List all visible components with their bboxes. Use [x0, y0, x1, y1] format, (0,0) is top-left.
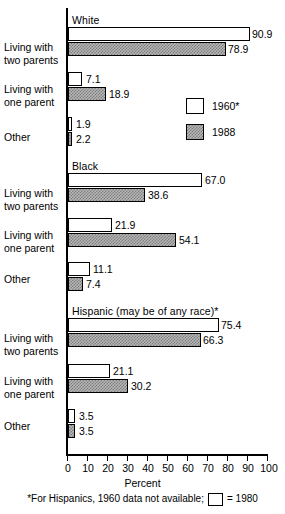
bar-value-white-one-parent-1960: 7.1 — [86, 72, 101, 86]
category-label-line2: one parent — [4, 388, 64, 401]
bar-black-two-parents-1988 — [68, 188, 145, 202]
bar-value-black-other-1960: 11.1 — [93, 262, 113, 276]
x-tick-30 — [127, 456, 128, 461]
bar-white-other-1960 — [68, 117, 72, 131]
bar-white-other-1988 — [68, 132, 72, 146]
bar-white-two-parents-1960 — [68, 27, 250, 41]
bar-value-black-one-parent-1988: 54.1 — [179, 233, 199, 247]
group-header-black: Black — [72, 160, 98, 172]
bar-value-white-other-1960: 1.9 — [76, 117, 91, 131]
bar-black-one-parent-1960 — [68, 218, 112, 232]
x-tick-20 — [107, 456, 108, 461]
bar-value-hispanic-other-1988: 3.5 — [79, 424, 94, 438]
x-axis-title: Percent — [0, 477, 285, 489]
legend-label-1960: 1960* — [212, 99, 239, 113]
category-label-line1: Living with — [4, 375, 64, 388]
group-header-hispanic: Hispanic (may be of any race)* — [72, 305, 219, 317]
horizontal-bar-chart: White Living with two parents 90.9 78.9 … — [0, 0, 285, 514]
bar-value-black-two-parents-1960: 67.0 — [205, 173, 225, 187]
footnote-legend-label: = 1980 — [227, 492, 258, 506]
bar-value-black-one-parent-1960: 21.9 — [115, 218, 135, 232]
category-label-line1: Living with — [4, 41, 64, 54]
bar-white-one-parent-1960 — [68, 72, 82, 86]
category-label-line2: one parent — [4, 242, 64, 255]
x-tick-70 — [207, 456, 208, 461]
x-tick-10 — [87, 456, 88, 461]
category-label-line2: two parents — [4, 345, 64, 358]
category-label-black-two-parents: Living with two parents — [4, 187, 64, 212]
bar-white-two-parents-1988 — [68, 42, 226, 56]
category-label-hispanic-other: Other — [4, 420, 64, 433]
bar-value-hispanic-other-1960: 3.5 — [79, 409, 94, 423]
bar-value-black-two-parents-1988: 38.6 — [148, 188, 168, 202]
category-label-line1: Other — [4, 273, 64, 286]
category-label-hispanic-two-parents: Living with two parents — [4, 332, 64, 357]
category-label-white-two-parents: Living with two parents — [4, 41, 64, 66]
footnote-swatch-1980-icon — [208, 493, 223, 506]
x-tick-50 — [167, 456, 168, 461]
x-tick-60 — [187, 456, 188, 461]
bar-hispanic-two-parents-1960 — [68, 318, 219, 332]
group-header-white: White — [72, 14, 99, 26]
x-tick-90 — [247, 456, 248, 461]
footnote-text: *For Hispanics, 1960 data not available; — [27, 492, 204, 506]
bar-hispanic-other-1960 — [68, 409, 75, 423]
category-label-hispanic-one-parent: Living with one parent — [4, 375, 64, 400]
x-tick-label-100: 100 — [256, 462, 282, 474]
category-label-black-one-parent: Living with one parent — [4, 229, 64, 254]
x-tick-40 — [147, 456, 148, 461]
bar-black-other-1960 — [68, 262, 90, 276]
category-label-line1: Living with — [4, 83, 64, 96]
bar-value-hispanic-two-parents-1960: 75.4 — [221, 318, 241, 332]
category-label-black-other: Other — [4, 273, 64, 286]
bar-value-white-two-parents-1960: 90.9 — [252, 27, 272, 41]
bar-hispanic-other-1988 — [68, 424, 75, 438]
category-label-line2: two parents — [4, 54, 64, 67]
bar-hispanic-one-parent-1960 — [68, 364, 110, 378]
category-label-line1: Other — [4, 420, 64, 433]
category-label-line2: one parent — [4, 96, 64, 109]
bar-value-white-other-1988: 2.2 — [76, 132, 91, 146]
bar-value-hispanic-one-parent-1960: 21.1 — [113, 364, 133, 378]
category-label-line1: Living with — [4, 332, 64, 345]
bar-value-hispanic-two-parents-1988: 66.3 — [203, 333, 223, 347]
bar-value-hispanic-one-parent-1988: 30.2 — [131, 379, 151, 393]
category-label-line1: Living with — [4, 229, 64, 242]
bar-value-white-one-parent-1988: 18.9 — [109, 87, 129, 101]
bar-black-one-parent-1988 — [68, 233, 176, 247]
x-tick-80 — [227, 456, 228, 461]
bar-black-other-1988 — [68, 277, 83, 291]
category-label-white-one-parent: Living with one parent — [4, 83, 64, 108]
bar-hispanic-one-parent-1988 — [68, 379, 128, 393]
legend-swatch-1960-icon — [186, 98, 204, 114]
bar-value-black-other-1988: 7.4 — [86, 277, 101, 291]
category-label-line1: Other — [4, 131, 64, 144]
bar-value-white-two-parents-1988: 78.9 — [228, 42, 248, 56]
category-label-line1: Living with — [4, 187, 64, 200]
bar-white-one-parent-1988 — [68, 87, 106, 101]
bar-hispanic-two-parents-1988 — [68, 333, 201, 347]
legend-label-1988: 1988 — [212, 125, 235, 139]
legend-swatch-1988-icon — [186, 124, 204, 140]
chart-footnote: *For Hispanics, 1960 data not available;… — [0, 492, 285, 506]
category-label-line2: two parents — [4, 200, 64, 213]
bar-black-two-parents-1960 — [68, 173, 202, 187]
x-tick-0 — [67, 456, 68, 461]
x-tick-100 — [267, 456, 268, 461]
category-label-white-other: Other — [4, 131, 64, 144]
